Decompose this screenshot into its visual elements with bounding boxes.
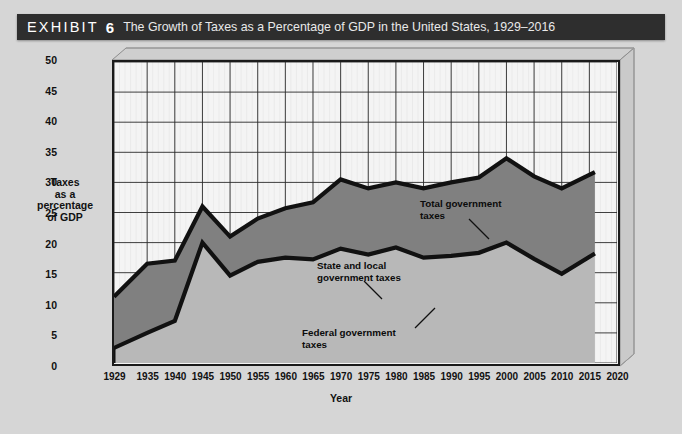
y-axis-title-line-4: of GDP	[23, 212, 107, 224]
xtick-2020: 2020	[598, 372, 638, 382]
y-axis-title: Taxes as a percentage of GDP	[23, 177, 107, 223]
exhibit-header-bar: EXHIBIT 6 The Growth of Taxes as a Perce…	[17, 14, 665, 40]
plot-area	[112, 60, 620, 366]
ytick-20: 20	[17, 239, 57, 250]
ytick-40: 40	[17, 116, 57, 127]
exhibit-word: EXHIBIT	[27, 19, 99, 35]
figure-footnote	[18, 424, 658, 434]
ytick-10: 10	[17, 300, 57, 311]
ytick-45: 45	[17, 86, 57, 97]
x-axis-title: Year	[17, 392, 665, 404]
annotation-state-local-taxes: State and local government taxes	[317, 260, 401, 283]
ytick-0: 0	[17, 361, 57, 372]
chart-container: 50 45 40 35 30 25 20 15 10 5 0 Taxes as …	[17, 46, 665, 396]
ytick-35: 35	[17, 147, 57, 158]
exhibit-number: 6	[106, 19, 114, 36]
exhibit-title: The Growth of Taxes as a Percentage of G…	[123, 20, 555, 34]
ytick-5: 5	[17, 330, 57, 341]
chart-canvas	[114, 62, 617, 363]
y-axis-title-line-1: Taxes	[23, 177, 107, 189]
exhibit-figure: EXHIBIT 6 The Growth of Taxes as a Perce…	[0, 0, 682, 434]
ytick-15: 15	[17, 269, 57, 280]
annotation-federal-taxes: Federal government taxes	[302, 327, 396, 350]
annotation-total-government-taxes: Total government taxes	[420, 198, 501, 221]
ytick-50: 50	[17, 55, 57, 66]
y-axis-title-line-3: percentage	[23, 200, 107, 212]
